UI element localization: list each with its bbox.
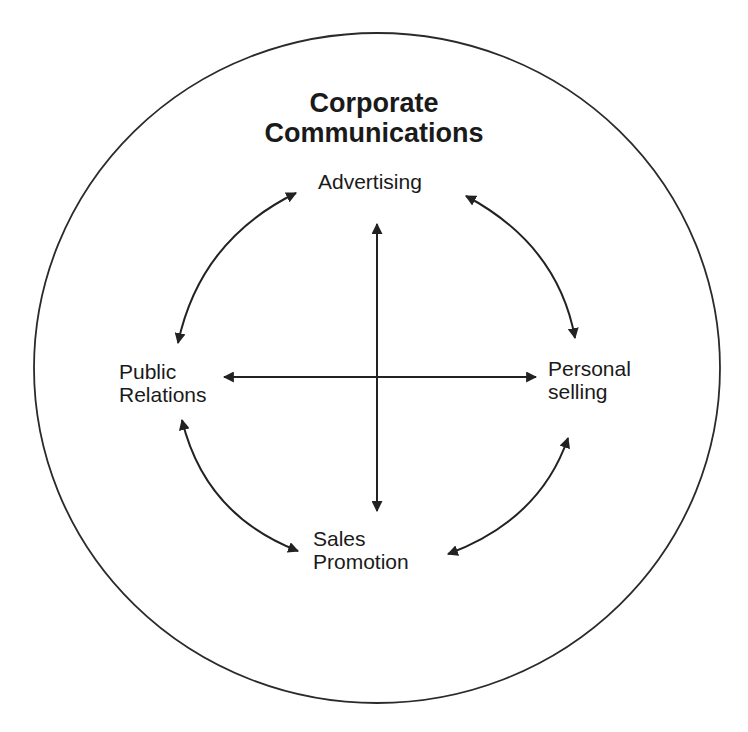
node-advertising-label: Advertising <box>318 170 422 193</box>
node-personal-selling: Personal selling <box>548 357 631 403</box>
arrow-personal-selling-sales-promotion <box>448 438 568 554</box>
node-sales-promotion-line-2: Promotion <box>313 550 409 573</box>
node-public-relations-line-1: Public <box>119 360 207 383</box>
diagram-title: Corporate Communications <box>224 88 524 148</box>
node-public-relations: Public Relations <box>119 360 207 406</box>
node-sales-promotion: Sales Promotion <box>313 527 409 573</box>
arrow-advertising-personal-selling <box>466 196 575 338</box>
title-line-1: Corporate <box>224 88 524 118</box>
node-personal-selling-line-1: Personal <box>548 357 631 380</box>
arrow-advertising-public-relations <box>178 193 296 343</box>
node-advertising: Advertising <box>318 170 422 193</box>
node-public-relations-line-2: Relations <box>119 383 207 406</box>
title-line-2: Communications <box>224 118 524 148</box>
node-personal-selling-line-2: selling <box>548 380 631 403</box>
arrow-public-relations-sales-promotion <box>182 420 298 551</box>
node-sales-promotion-line-1: Sales <box>313 527 409 550</box>
